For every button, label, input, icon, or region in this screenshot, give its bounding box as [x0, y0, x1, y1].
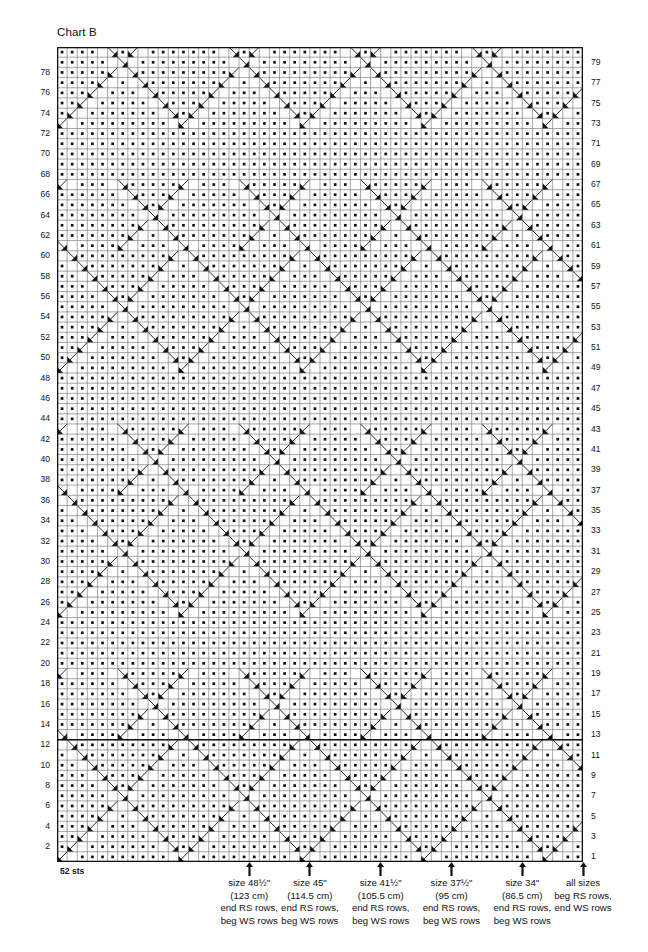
row-number-right-63: 63	[591, 221, 601, 230]
row-number-left-44: 44	[40, 414, 50, 423]
row-number-left-50: 50	[40, 353, 50, 362]
row-number-right-11: 11	[591, 751, 600, 760]
row-number-right-41: 41	[591, 445, 601, 454]
row-number-right-75: 75	[591, 99, 601, 108]
row-number-right-17: 17	[591, 689, 601, 698]
size-marker-text: all sizesbeg RS rows,end WS rows	[527, 877, 639, 915]
row-number-right-59: 59	[591, 262, 601, 271]
row-number-left-32: 32	[40, 537, 50, 546]
row-number-right-27: 27	[591, 588, 601, 597]
row-number-left-42: 42	[40, 435, 50, 444]
row-number-left-78: 78	[40, 68, 50, 77]
size-marker-all-sizes: all sizesbeg RS rows,end WS rows	[527, 862, 639, 915]
row-number-right-21: 21	[591, 649, 601, 658]
row-number-right-25: 25	[591, 608, 601, 617]
row-number-right-5: 5	[591, 812, 596, 821]
row-number-left-4: 4	[45, 822, 50, 831]
row-number-left-34: 34	[40, 516, 50, 525]
row-number-left-14: 14	[40, 720, 50, 729]
row-number-right-45: 45	[591, 404, 601, 413]
row-number-left-48: 48	[40, 374, 50, 383]
row-number-right-77: 77	[591, 78, 601, 87]
row-number-right-61: 61	[591, 241, 601, 250]
row-number-left-36: 36	[40, 496, 50, 505]
row-number-right-49: 49	[591, 363, 601, 372]
row-number-left-56: 56	[40, 292, 50, 301]
row-number-right-55: 55	[591, 302, 601, 311]
row-number-right-15: 15	[591, 710, 601, 719]
size-marker-size: all sizes	[527, 877, 639, 890]
row-number-right-69: 69	[591, 160, 601, 169]
row-number-left-68: 68	[40, 170, 50, 179]
size-marker-end-rows: end WS rows	[527, 902, 639, 915]
row-number-right-51: 51	[591, 343, 601, 352]
row-number-left-64: 64	[40, 211, 50, 220]
row-number-right-23: 23	[591, 628, 601, 637]
row-number-left-18: 18	[40, 679, 50, 688]
row-number-left-22: 22	[40, 638, 50, 647]
row-number-right-31: 31	[591, 547, 601, 556]
row-number-right-3: 3	[591, 832, 596, 841]
row-number-left-62: 62	[40, 231, 50, 240]
page-title: Chart B	[57, 26, 97, 38]
row-number-left-58: 58	[40, 272, 50, 281]
row-number-left-66: 66	[40, 190, 50, 199]
row-number-left-40: 40	[40, 455, 50, 464]
row-number-left-38: 38	[40, 475, 50, 484]
row-number-left-74: 74	[40, 109, 50, 118]
row-number-left-70: 70	[40, 149, 50, 158]
size-arrow-icon	[527, 862, 639, 876]
row-number-right-35: 35	[591, 506, 601, 515]
size-marker-row: size 48½"(123 cm)end RS rows,beg WS rows…	[0, 862, 648, 952]
row-number-left-76: 76	[40, 88, 50, 97]
row-number-left-52: 52	[40, 333, 50, 342]
row-number-left-46: 46	[40, 394, 50, 403]
row-number-right-43: 43	[591, 425, 601, 434]
row-number-right-57: 57	[591, 282, 601, 291]
row-number-right-65: 65	[591, 200, 601, 209]
row-number-left-12: 12	[40, 740, 50, 749]
row-number-left-24: 24	[40, 618, 50, 627]
row-number-right-1: 1	[591, 852, 596, 861]
row-number-left-8: 8	[45, 781, 50, 790]
row-number-left-10: 10	[40, 761, 50, 770]
size-marker-beg-rows: beg WS rows	[466, 915, 578, 928]
row-number-right-7: 7	[591, 791, 596, 800]
row-number-right-13: 13	[591, 730, 601, 739]
row-number-right-47: 47	[591, 384, 601, 393]
row-number-left-28: 28	[40, 577, 50, 586]
row-number-right-67: 67	[591, 180, 601, 189]
row-number-right-33: 33	[591, 526, 601, 535]
size-marker-metric: beg RS rows,	[527, 890, 639, 903]
row-number-right-79: 79	[591, 58, 601, 67]
row-number-right-73: 73	[591, 119, 601, 128]
row-number-left-60: 60	[40, 251, 50, 260]
row-number-left-26: 26	[40, 598, 50, 607]
row-number-left-30: 30	[40, 557, 50, 566]
row-numbers-right: 7977757371696765636159575553514947454341…	[591, 47, 641, 862]
row-number-left-54: 54	[40, 312, 50, 321]
row-number-left-16: 16	[40, 700, 50, 709]
row-number-left-20: 20	[40, 659, 50, 668]
row-number-right-53: 53	[591, 323, 601, 332]
row-number-left-2: 2	[45, 842, 50, 851]
chart-page: Chart B 78767472706866646260585654525048…	[0, 0, 648, 952]
row-number-right-71: 71	[591, 139, 601, 148]
row-number-right-37: 37	[591, 486, 601, 495]
row-number-right-39: 39	[591, 465, 601, 474]
row-number-left-72: 72	[40, 129, 50, 138]
row-numbers-left: 7876747270686664626058565452504846444240…	[0, 47, 50, 862]
stitch-chart-grid[interactable]	[57, 47, 583, 862]
row-number-left-6: 6	[45, 801, 50, 810]
chart-grid-svg	[57, 47, 583, 862]
row-number-right-19: 19	[591, 669, 601, 678]
row-number-right-29: 29	[591, 567, 601, 576]
row-number-right-9: 9	[591, 771, 596, 780]
